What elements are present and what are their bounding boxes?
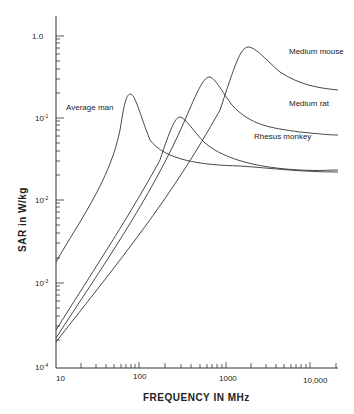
y-ticks bbox=[56, 36, 64, 340]
x-tick-1000: 1000 bbox=[219, 374, 237, 383]
label-rhesus-monkey: Rhesus monkey bbox=[254, 132, 311, 141]
y-tick-0.0001: 10-4 bbox=[35, 362, 49, 372]
curve-medium-mouse bbox=[56, 47, 338, 342]
x-tick-10000: 10,000 bbox=[303, 376, 328, 385]
sar-chart: 1.0 10-1 10-2 10-3 10-4 10 100 1000 10,0… bbox=[0, 0, 354, 414]
x-tick-10: 10 bbox=[56, 374, 65, 383]
label-medium-mouse: Medium mouse bbox=[289, 47, 344, 56]
label-medium-rat: Medium rat bbox=[289, 99, 330, 108]
y-tick-0.001: 10-3 bbox=[35, 278, 49, 288]
y-tick-1: 1.0 bbox=[32, 32, 44, 41]
curve-medium-rat bbox=[56, 77, 338, 338]
y-tick-0.01: 10-2 bbox=[35, 195, 49, 205]
label-average-man: Average man bbox=[66, 103, 113, 112]
x-axis-title: FREQUENCY IN MHz bbox=[143, 392, 250, 403]
curve-average-man bbox=[56, 94, 338, 262]
y-axis-title: SAR in W/kg bbox=[17, 187, 28, 252]
x-tick-100: 100 bbox=[133, 372, 147, 381]
x-ticks bbox=[81, 362, 336, 368]
y-tick-0.1: 10-1 bbox=[35, 113, 49, 123]
